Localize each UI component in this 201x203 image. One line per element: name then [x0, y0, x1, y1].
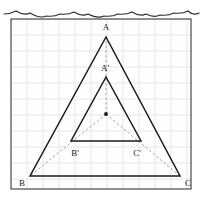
vertex-label-C-prime: C' [133, 148, 141, 158]
vertex-label-A: A [103, 22, 110, 32]
vertex-label-A-prime: A' [101, 63, 109, 73]
geometry-figure: AA'B'C'BC [0, 0, 201, 203]
center-of-dilation-dot [104, 112, 108, 116]
figure-canvas: AA'B'C'BC [0, 0, 201, 203]
vertex-label-C: C [185, 178, 191, 188]
vertex-label-B-prime: B' [71, 148, 79, 158]
vertex-label-B: B [19, 178, 25, 188]
